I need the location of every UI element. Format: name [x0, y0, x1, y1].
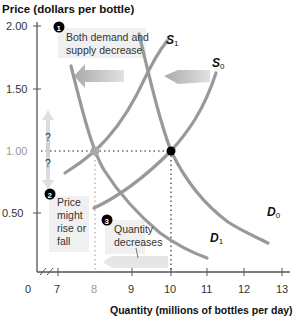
- note-3-line-2: decreases: [114, 236, 162, 248]
- demand-shift-arrow: [74, 64, 124, 88]
- x-tick-8: 8: [91, 283, 97, 295]
- label-d1: D1: [210, 231, 224, 246]
- supply-shift-arrow: [164, 70, 210, 84]
- y-tick-2-00: 2.00: [6, 20, 27, 32]
- x-tick-10: 10: [164, 283, 176, 295]
- y-tick-1-00: 1.00: [6, 145, 27, 157]
- label-d0: D0: [267, 205, 281, 220]
- note-2-line-1: Price: [57, 196, 81, 208]
- y-tick-0-50: 0.50: [2, 207, 23, 219]
- initial-equilibrium-point: [167, 147, 176, 156]
- demand-curve-d0: [139, 34, 268, 243]
- svg-text:1: 1: [57, 24, 62, 33]
- new-equilibrium-point: [91, 147, 100, 156]
- price-down-question: ?: [45, 157, 51, 169]
- y-axis-title: Price (dollars per bottle): [2, 3, 134, 15]
- note-2-line-3: rise or: [57, 222, 87, 234]
- note-1-line-1: Both demand and: [66, 31, 149, 43]
- chart: Price (dollars per bottle) 2.00 1.50 1.0…: [0, 0, 295, 321]
- svg-text:3: 3: [105, 217, 110, 226]
- price-up-question: ?: [45, 131, 51, 143]
- note-2-line-4: fall: [57, 235, 70, 247]
- x-tick-7: 7: [54, 283, 60, 295]
- note-3-line-1: Quantity: [114, 223, 154, 235]
- x-tick-12: 12: [238, 283, 250, 295]
- y-tick-1-50: 1.50: [6, 83, 27, 95]
- label-s1: S1: [166, 33, 179, 48]
- y-ticks: 2.00 1.50 1.00 0.50: [2, 20, 41, 219]
- quantity-decrease-arrow: [103, 256, 168, 268]
- x-tick-13: 13: [276, 283, 288, 295]
- price-uncertain-arrow: [42, 110, 54, 190]
- note-1-line-2: supply decrease: [66, 44, 143, 56]
- x-axis-title: Quantity (millions of bottles per day): [110, 304, 293, 316]
- x-tick-0: 0: [25, 283, 31, 295]
- label-s0: S0: [212, 56, 225, 71]
- svg-text:2: 2: [48, 191, 53, 200]
- note-2-line-2: might: [57, 209, 83, 221]
- x-tick-9: 9: [128, 283, 134, 295]
- x-tick-11: 11: [201, 283, 212, 295]
